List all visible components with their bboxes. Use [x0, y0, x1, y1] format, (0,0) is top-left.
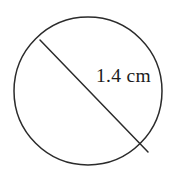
geometry-figure: 1.4 cm — [0, 0, 175, 179]
geometry-canvas — [0, 0, 175, 179]
diameter-measure-label: 1.4 cm — [96, 66, 151, 86]
diameter-segment — [40, 40, 148, 152]
